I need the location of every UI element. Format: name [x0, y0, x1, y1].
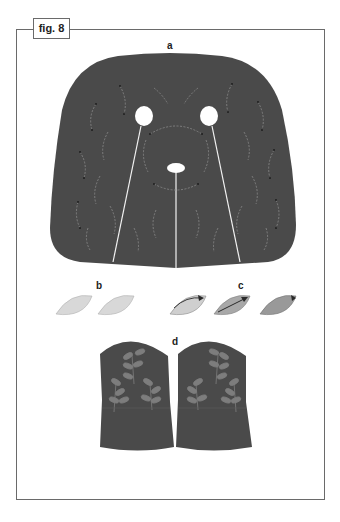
- panel-d-cuffs: [100, 341, 252, 450]
- panel-a-mask: [50, 53, 296, 268]
- left-eye-opening: [135, 106, 153, 126]
- leaf-b2: [98, 295, 134, 314]
- panel-c-leaves: [170, 295, 296, 315]
- mask-body: [50, 53, 296, 268]
- right-eye-opening: [200, 106, 218, 126]
- cuff-left: [100, 341, 174, 450]
- figure-illustration: [0, 0, 340, 522]
- leaf-c3: [260, 295, 296, 314]
- nose-opening: [167, 163, 185, 173]
- cuff-right: [176, 341, 252, 450]
- panel-b-leaves: [56, 295, 134, 314]
- leaf-b1: [56, 295, 92, 314]
